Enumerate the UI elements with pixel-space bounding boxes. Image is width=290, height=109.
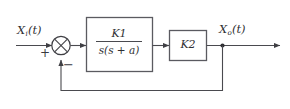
gain-subscript: 2 (189, 38, 196, 51)
forward-plant-transfer-function: K1 s(s + a) (92, 27, 146, 56)
gain-symbol: K (180, 38, 188, 51)
input-symbol: X (17, 23, 25, 37)
transfer-function-denominator: s(s + a) (92, 42, 146, 56)
block-diagram: Xi(t) + − K1 s(s + a) K2 Xo(t) (0, 0, 290, 109)
numerator-symbol: K (111, 27, 119, 40)
output-signal-label: Xo(t) (219, 24, 246, 36)
input-signal-label: Xi(t) (17, 25, 42, 37)
gain-block-label: K2 (170, 38, 206, 51)
output-symbol: X (219, 22, 227, 36)
numerator-subscript: 1 (120, 27, 127, 40)
output-argument: (t) (232, 22, 246, 36)
input-argument: (t) (28, 23, 42, 37)
summing-junction-minus-sign: − (63, 58, 74, 71)
summing-junction-plus-sign: + (40, 47, 50, 59)
transfer-function-numerator: K1 (92, 27, 146, 41)
